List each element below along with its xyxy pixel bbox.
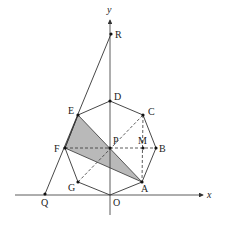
y-axis-label: y (106, 4, 112, 15)
label-q: Q (41, 197, 49, 208)
point-g (76, 180, 79, 183)
label-a: A (141, 183, 149, 194)
point-r (109, 32, 112, 35)
label-c: C (148, 106, 155, 117)
label-o: O (113, 197, 120, 208)
label-p: P (113, 135, 119, 146)
label-d: D (114, 91, 121, 102)
point-e (76, 113, 79, 116)
label-e: E (68, 105, 74, 116)
label-f: F (54, 143, 60, 154)
point-b (154, 146, 157, 149)
label-b: B (159, 143, 166, 154)
label-g: G (68, 182, 75, 193)
point-p (108, 146, 111, 149)
point-f (63, 146, 66, 149)
point-d (108, 99, 111, 102)
label-r: R (115, 29, 122, 40)
shaded-triangle-aef (65, 115, 142, 182)
point-m (141, 146, 144, 149)
x-axis-label: x (206, 189, 212, 200)
geometry-diagram: y x R D E C P M F B G A O Q (0, 0, 225, 225)
label-m: M (138, 135, 147, 146)
point-q (43, 192, 46, 195)
point-c (141, 113, 144, 116)
